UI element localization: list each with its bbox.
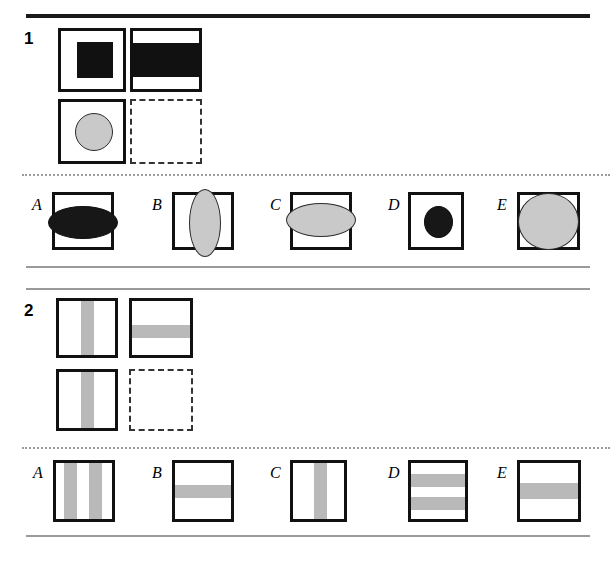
- puzzle1-option-e[interactable]: [517, 192, 580, 250]
- puzzle1-option-c-label: C: [270, 197, 281, 213]
- puzzle1-option-c[interactable]: [290, 192, 352, 250]
- horizontal-stripe-shape: [132, 325, 190, 338]
- horizontal-stripe-top-shape: [411, 474, 465, 487]
- gray-large-circle-shape: [518, 193, 579, 250]
- puzzle2-option-d[interactable]: [408, 460, 468, 522]
- puzzle1-option-b[interactable]: [172, 192, 234, 250]
- puzzle2-option-c[interactable]: [290, 460, 347, 522]
- gray-circle-shape: [75, 113, 113, 151]
- puzzle2-option-b[interactable]: [172, 460, 234, 522]
- puzzle-number-1: 1: [24, 30, 33, 47]
- horizontal-stripe-bottom-shape: [411, 497, 465, 510]
- horizontal-stripe-shape-b: [175, 485, 231, 498]
- puzzle1-option-a-label: A: [32, 197, 42, 213]
- puzzle1-stimulus-c: [58, 99, 126, 164]
- section-rule-upper: [26, 266, 590, 268]
- puzzle2-option-b-label: B: [152, 465, 162, 481]
- puzzle2-option-e[interactable]: [517, 460, 581, 522]
- puzzle-number-2: 2: [24, 302, 33, 319]
- puzzle2-stimulus-c: [56, 369, 118, 431]
- puzzle2-separator: [22, 447, 610, 450]
- bottom-rule: [26, 535, 590, 537]
- horizontal-stripe-shape-e: [520, 483, 578, 499]
- puzzle2-option-c-label: C: [270, 465, 281, 481]
- black-band-shape: [133, 43, 199, 77]
- gray-wide-ellipse-shape: [286, 203, 356, 237]
- puzzle1-option-d-label: D: [388, 197, 400, 213]
- puzzle2-stimulus-b: [129, 298, 193, 358]
- black-square-shape: [77, 42, 113, 78]
- vertical-stripe-right-shape: [89, 463, 102, 519]
- puzzle2-option-d-label: D: [388, 465, 400, 481]
- vertical-stripe-shape-2: [81, 372, 94, 428]
- puzzle2-option-a-label: A: [33, 465, 43, 481]
- top-rule: [26, 14, 590, 18]
- puzzle1-option-b-label: B: [152, 197, 162, 213]
- section-rule-lower: [26, 288, 590, 290]
- puzzle2-stimulus-a: [56, 298, 118, 358]
- puzzle2-option-a[interactable]: [53, 460, 115, 522]
- vertical-stripe-shape: [81, 301, 94, 355]
- puzzle1-separator: [22, 174, 610, 177]
- puzzle1-option-a[interactable]: [52, 192, 114, 250]
- black-small-circle-shape: [424, 206, 453, 238]
- puzzle1-answer-slot[interactable]: [130, 99, 202, 164]
- puzzle2-option-e-label: E: [497, 465, 507, 481]
- puzzle2-answer-slot[interactable]: [129, 369, 193, 431]
- puzzle1-option-d[interactable]: [408, 192, 464, 250]
- puzzle1-stimulus-b: [130, 28, 202, 92]
- vertical-stripe-shape-c: [314, 463, 327, 519]
- vertical-stripe-left-shape: [64, 463, 77, 519]
- black-wide-ellipse-shape: [48, 206, 118, 239]
- puzzle1-stimulus-a: [58, 28, 126, 92]
- gray-tall-ellipse-shape: [189, 189, 221, 257]
- puzzle1-option-e-label: E: [497, 197, 507, 213]
- test-page: 1 A B C D E 2 A: [0, 0, 616, 568]
